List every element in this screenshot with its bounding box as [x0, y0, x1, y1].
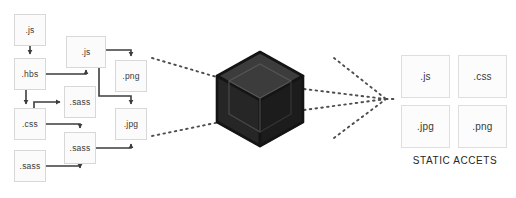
source-node-png[interactable]: .png [115, 60, 147, 92]
edge-sasslow-to-jpg [96, 144, 131, 148]
dotted-in-lower [152, 122, 220, 136]
edge-css-to-sass-low [46, 124, 80, 128]
edge-hbs-to-js [46, 70, 86, 74]
output-node-jpg[interactable]: .jpg [401, 105, 450, 148]
dotted-out-upmid [304, 89, 386, 99]
dotted-out-top [334, 58, 386, 99]
output-node-png[interactable]: .png [458, 105, 507, 148]
diagram-canvas: .js .js .hbs .png .sass .css .jpg .sass … [0, 0, 516, 198]
dotted-out-bottom [334, 99, 386, 138]
static-assets-caption: STATIC ACCETS [398, 155, 512, 166]
source-node-js-top[interactable]: .js [14, 14, 46, 46]
output-node-js[interactable]: .js [401, 55, 450, 98]
cube-icon [215, 50, 305, 148]
edge-sassbot-to-sasslow [46, 166, 80, 168]
source-node-sass-low[interactable]: .sass [64, 132, 96, 164]
dotted-out-lowmid [304, 99, 386, 110]
source-node-sass-up[interactable]: .sass [64, 86, 96, 118]
dotted-edges-in [152, 58, 220, 136]
output-node-css[interactable]: .css [458, 55, 507, 98]
source-node-hbs[interactable]: .hbs [14, 58, 46, 90]
dotted-in-upper [152, 58, 220, 78]
source-node-sass-bot[interactable]: .sass [14, 150, 46, 182]
webpack-bundler-cube [215, 50, 305, 148]
source-node-jpg[interactable]: .jpg [115, 108, 147, 140]
source-node-css[interactable]: .css [14, 108, 46, 140]
source-node-js-mid[interactable]: .js [66, 36, 106, 68]
edge-js-to-png [106, 50, 131, 56]
dotted-edges-out [304, 58, 396, 138]
